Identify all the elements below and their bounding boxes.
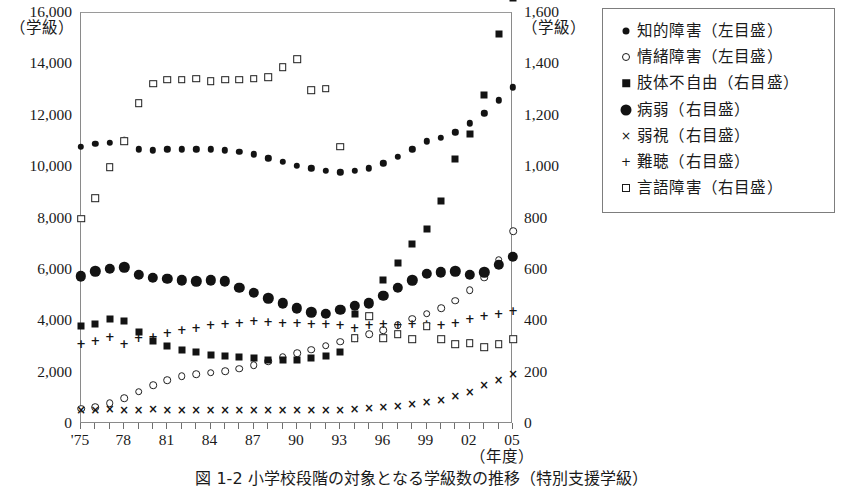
data-point [135,99,143,107]
x-axis-tick-mark [454,423,455,429]
data-point [92,141,98,147]
data-point [336,338,344,346]
data-point [423,310,431,318]
data-point [119,262,129,272]
x-axis-tick-mark [123,423,124,429]
data-point [279,357,286,364]
data-point: × [220,405,230,415]
data-point [149,80,157,88]
legend-item-5[interactable]: +難聴（右目盛） [615,149,830,175]
data-point [308,86,316,94]
data-point [135,388,143,396]
data-point [279,159,285,165]
data-point [393,283,403,293]
legend-item-label: 弱視（右目盛） [637,126,750,146]
data-point: + [206,320,216,330]
cross-x-icon: × [615,123,637,149]
x-axis-tick-mark [109,423,110,429]
data-point [466,130,473,137]
legend-item-4[interactable]: ×弱視（右目盛） [615,123,830,149]
data-point [380,160,386,166]
data-point [452,156,459,163]
figure-caption: 図 1-2 小学校段階の対象となる学級数の推移（特別支援学級） [0,470,843,488]
data-point [221,368,229,376]
data-point: + [479,311,489,321]
data-point [437,335,445,343]
data-point: + [249,316,259,326]
data-point [380,277,387,284]
data-point [179,146,185,152]
x-axis-tick-label-99: 99 [418,431,434,448]
legend-item-2[interactable]: 肢体不自由（右目盛） [615,70,830,96]
legend-item-1[interactable]: 情緒障害（左目盛） [615,44,830,70]
x-axis-tick-mark [210,423,211,429]
data-point [234,283,244,293]
data-point [105,263,115,273]
data-point [148,272,158,282]
data-point [466,287,474,295]
data-point [335,304,345,314]
data-point: × [508,369,518,379]
right-axis-tick-400: 400 [524,312,547,328]
data-point [323,168,329,174]
legend-item-label: 病弱（右目盛） [637,100,750,120]
x-axis-tick-mark [238,423,239,429]
left-axis-tick-6000: 6,000 [0,261,72,277]
data-point [107,140,113,146]
data-point: × [162,405,172,415]
data-point [438,134,444,140]
data-point [236,149,242,155]
legend-item-label: 情緒障害（左目盛） [637,47,783,67]
data-point [495,30,502,37]
data-point [481,110,487,116]
data-point: × [407,399,417,409]
data-point: + [191,323,201,333]
data-points-layer: ×××××××××××××××××××××××××××××××+++++++++… [81,13,511,422]
data-point [408,335,416,343]
data-point [394,260,401,267]
data-point: + [508,306,518,316]
data-point [292,303,302,313]
legend-item-0[interactable]: 知的障害（左目盛） [615,18,830,44]
data-point [92,320,99,327]
data-point [177,275,187,285]
legend-item-3[interactable]: 病弱（右目盛） [615,97,830,123]
data-point [250,75,258,83]
data-point: + [364,320,374,330]
data-point: + [105,332,115,342]
data-point [337,169,343,175]
x-axis: '7578818487909396990205 [80,423,512,463]
data-point [394,330,402,338]
data-point [192,75,200,83]
x-axis-tick-mark [267,423,268,429]
x-axis-unit: （年度） [470,444,534,466]
data-point [265,155,271,161]
data-point [236,354,243,361]
left-axis-tick-0: 0 [0,415,72,431]
data-point [495,97,501,103]
data-point [322,352,329,359]
data-point [495,341,503,349]
left-axis-tick-14000: 14,000 [0,55,72,71]
legend-item-label: 言語障害（右目盛） [637,178,783,198]
data-point [452,297,460,305]
legend-item-6[interactable]: 言語障害（右目盛） [615,175,830,201]
data-point [164,342,171,349]
data-point: × [465,387,475,397]
left-axis-tick-8000: 8,000 [0,210,72,226]
data-point [149,382,157,390]
right-axis-tick-200: 200 [524,364,547,380]
data-point [150,147,156,153]
data-point: + [90,336,100,346]
right-axis-tick-1600: 1,600 [524,4,559,20]
data-point [178,346,185,353]
data-point: × [76,405,86,415]
data-point [510,0,517,1]
data-point [322,342,330,350]
data-point: + [234,318,244,328]
data-point [121,318,128,325]
filled-square-icon [615,70,637,96]
x-axis-tick-mark [368,423,369,429]
data-point [437,305,445,313]
data-point [365,312,373,320]
